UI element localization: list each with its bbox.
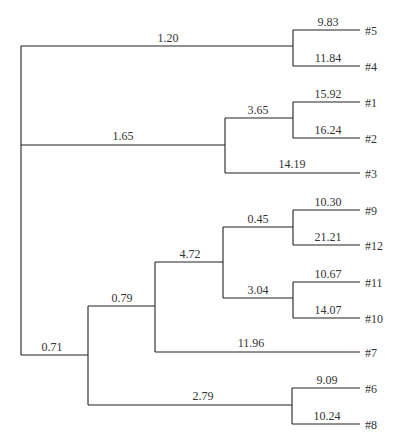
branch-label: 10.67 xyxy=(315,267,342,281)
leaf-label: #4 xyxy=(365,60,377,74)
branch-label: 14.19 xyxy=(279,157,306,171)
branch-label: 11.84 xyxy=(315,51,342,65)
leaf-label: #12 xyxy=(365,239,383,253)
branch-label: 1.65 xyxy=(113,129,134,143)
branch-label: 10.30 xyxy=(315,195,342,209)
leaf-label: #5 xyxy=(365,24,377,38)
leaf-label: #1 xyxy=(365,96,377,110)
branch-label: 0.45 xyxy=(248,212,269,226)
branch-label: 0.71 xyxy=(42,340,63,354)
dendrogram-canvas: 1.20 9.83 11.84 #5 #4 1.65 3.65 15.92 16… xyxy=(0,0,393,443)
branch-label: 15.92 xyxy=(315,87,342,101)
dendrogram: 1.20 9.83 11.84 #5 #4 1.65 3.65 15.92 16… xyxy=(0,0,393,443)
branch-label: 21.21 xyxy=(315,230,342,244)
branch-label: 2.79 xyxy=(193,389,214,403)
branch-label: 9.09 xyxy=(317,373,338,387)
branch-label: 4.72 xyxy=(180,247,201,261)
leaf-label: #7 xyxy=(365,346,377,360)
branch-label: 1.20 xyxy=(158,31,179,45)
branch-label: 3.65 xyxy=(248,103,269,117)
leaf-label: #8 xyxy=(365,418,377,432)
leaf-label: #3 xyxy=(365,167,377,181)
branch-label: 3.04 xyxy=(248,283,269,297)
branch-label: 16.24 xyxy=(315,123,342,137)
branch-label: 0.79 xyxy=(112,291,133,305)
branch-label: 10.24 xyxy=(314,409,341,423)
leaf-label: #9 xyxy=(365,204,377,218)
leaf-label: #10 xyxy=(365,312,383,326)
branch-label: 9.83 xyxy=(318,15,339,29)
leaf-label: #2 xyxy=(365,132,377,146)
branch-label: 14.07 xyxy=(315,303,342,317)
leaf-label: #11 xyxy=(365,276,383,290)
leaf-label: #6 xyxy=(365,382,377,396)
branch-label: 11.96 xyxy=(238,336,265,350)
